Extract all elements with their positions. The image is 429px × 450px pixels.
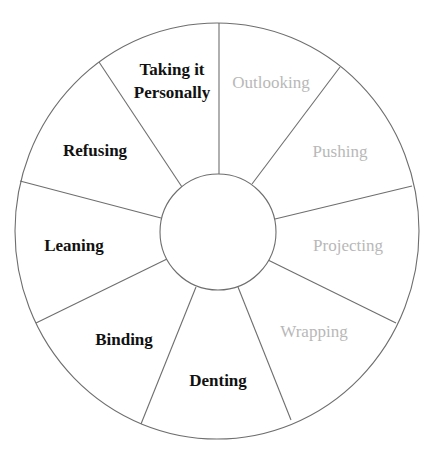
spoke-leaning-binding	[36, 259, 167, 323]
segment-label-binding: Binding	[95, 330, 153, 349]
center-hub	[160, 174, 276, 290]
segment-label-projecting: Projecting	[313, 236, 383, 255]
segment-label-wrapping: Wrapping	[280, 322, 348, 341]
spoke-projecting-pushing	[275, 186, 412, 219]
spoke-denting-wrapping	[238, 287, 291, 420]
spoke-personally-refusing	[99, 62, 182, 187]
spoke-binding-denting	[141, 287, 196, 424]
segment-label-pushing: Pushing	[313, 142, 368, 161]
segment-taking-it-personally: Taking it Personally	[134, 60, 211, 102]
wheel-diagram: Taking it Personally Outlooking Pushing …	[0, 0, 429, 450]
segment-label-taking-it-line1: Taking it	[139, 60, 204, 79]
segment-label-refusing: Refusing	[63, 141, 128, 160]
spoke-refusing-leaning	[20, 181, 161, 218]
segment-label-leaning: Leaning	[44, 236, 104, 255]
spoke-wrapping-projecting	[268, 260, 396, 323]
segment-label-outlooking: Outlooking	[232, 73, 310, 92]
segment-label-personally-line2: Personally	[134, 83, 211, 102]
segment-label-denting: Denting	[189, 371, 247, 390]
